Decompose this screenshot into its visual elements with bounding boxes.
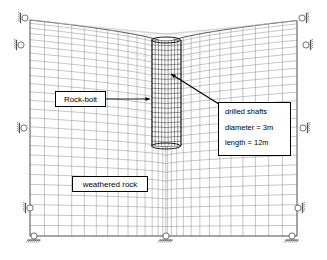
drilled-shafts-title: drilled shafts — [225, 108, 284, 116]
drilled-shaft-mesh — [152, 37, 182, 149]
drilled-shafts-diameter: diameter = 3m — [225, 124, 284, 132]
drilled-shafts-callout: drilled shafts diameter = 3m length = 12… — [218, 102, 291, 156]
fem-mesh-figure: Rock-bolt drilled shafts diameter = 3m l… — [0, 0, 327, 260]
weathered-rock-label: weathered rock — [72, 176, 148, 192]
rock-bolt-label-text: Rock-bolt — [64, 95, 97, 104]
rock-bolt-label: Rock-bolt — [55, 91, 106, 107]
drilled-shafts-length: length = 12m — [225, 139, 284, 147]
weathered-rock-label-text: weathered rock — [83, 180, 138, 189]
